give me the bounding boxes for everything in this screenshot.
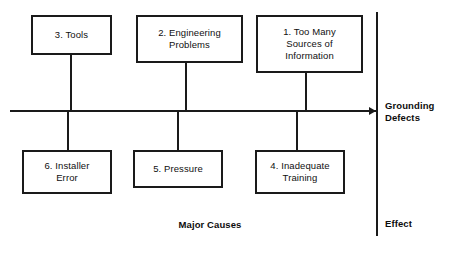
cause-box-pressure[interactable]: 5. Pressure	[133, 150, 223, 188]
connector-stem-installer-error	[67, 110, 69, 150]
cause-box-tools[interactable]: 3. Tools	[31, 15, 112, 55]
effect-title-label: Grounding Defects	[385, 100, 451, 124]
connector-stem-pressure	[177, 110, 179, 150]
cause-box-label: 3. Tools	[52, 29, 91, 41]
cause-box-inadequate-training[interactable]: 4. Inadequate Training	[255, 150, 345, 194]
cause-box-too-many-sources-of-information[interactable]: 1. Too Many Sources of Information	[256, 15, 363, 73]
cause-box-label: 2. Engineering Problems	[155, 27, 224, 51]
connector-stem-engineering-problems	[185, 63, 187, 112]
connector-stem-inadequate-training	[296, 110, 298, 150]
spine-line	[10, 110, 376, 112]
connector-stem-tools	[70, 55, 72, 112]
cause-box-installer-error[interactable]: 6. Installer Error	[22, 150, 112, 194]
effect-caption-label: Effect	[385, 218, 445, 230]
cause-box-engineering-problems[interactable]: 2. Engineering Problems	[136, 15, 243, 63]
effect-divider-line	[376, 12, 378, 236]
cause-box-label: 5. Pressure	[150, 163, 206, 175]
cause-box-label: 4. Inadequate Training	[267, 160, 332, 184]
fishbone-diagram: 3. Tools 2. Engineering Problems 1. Too …	[0, 0, 452, 262]
connector-stem-too-many-sources	[305, 73, 307, 112]
cause-box-label: 1. Too Many Sources of Information	[280, 26, 339, 62]
major-causes-label: Major Causes	[150, 219, 270, 231]
cause-box-label: 6. Installer Error	[41, 160, 92, 184]
arrow-right-icon	[369, 107, 376, 115]
